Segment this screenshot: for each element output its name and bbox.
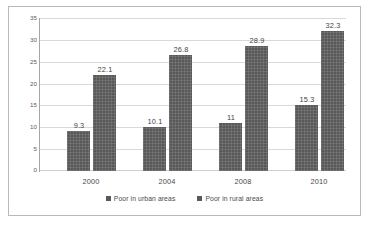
legend-label-urban: Poor in urban areas: [114, 195, 176, 202]
bar-rural-2000[interactable]: [93, 75, 116, 171]
bar-label-rural-2004: 26.8: [164, 46, 198, 54]
bar-rural-2010[interactable]: [321, 31, 344, 171]
bar-group: 10.1 26.8: [143, 18, 192, 171]
y-axis-labels: 35 30 25 20 15 10 5 0: [12, 18, 37, 171]
bar-urban-2010[interactable]: [295, 105, 318, 171]
bar-label-rural-2010: 32.3: [316, 22, 350, 30]
y-tick-label: 30: [15, 37, 37, 43]
bar-urban-2008[interactable]: [219, 123, 242, 171]
y-tick-label: 10: [15, 124, 37, 130]
y-tick-label: 0: [15, 167, 37, 173]
bar-label-rural-2008: 28.9: [240, 37, 274, 45]
bar-urban-2000[interactable]: [67, 131, 90, 171]
bar-label-urban-2004: 10.1: [138, 118, 172, 126]
legend-entry-rural[interactable]: Poor in rural areas: [197, 195, 263, 202]
legend-swatch-icon: [106, 196, 111, 201]
x-tick-label-2008: 2008: [217, 177, 269, 186]
x-tick-label-2000: 2000: [65, 177, 117, 186]
bar-rural-2008[interactable]: [245, 46, 268, 172]
bar-rural-2004[interactable]: [169, 55, 192, 171]
chart-legend: Poor in urban areas Poor in rural areas: [9, 195, 360, 202]
legend-swatch-icon: [197, 196, 202, 201]
y-tick-label: 35: [15, 15, 37, 21]
chart-container: 35 30 25 20 15 10 5 0 9.3 22.1 10.1 26.8…: [8, 6, 361, 216]
y-tick-label: 5: [15, 146, 37, 152]
legend-entry-urban[interactable]: Poor in urban areas: [106, 195, 176, 202]
x-tick-label-2004: 2004: [141, 177, 193, 186]
bar-group: 15.3 32.3: [295, 18, 344, 171]
y-tick-label: 25: [15, 59, 37, 65]
y-tick-label: 20: [15, 81, 37, 87]
bar-group: 11 28.9: [219, 18, 268, 171]
bar-urban-2004[interactable]: [143, 127, 166, 171]
bar-label-urban-2008: 11: [214, 114, 248, 122]
bar-group: 9.3 22.1: [67, 18, 116, 171]
y-tick-label: 15: [15, 102, 37, 108]
legend-label-rural: Poor in rural areas: [205, 195, 263, 202]
bar-label-urban-2000: 9.3: [62, 122, 96, 130]
x-axis-labels: 2000 2004 2008 2010: [40, 177, 346, 189]
bar-label-rural-2000: 22.1: [88, 66, 122, 74]
x-tick-label-2010: 2010: [293, 177, 345, 186]
bar-label-urban-2010: 15.3: [290, 96, 324, 104]
bars-layer: 9.3 22.1 10.1 26.8 11 28.9 15.3 32.3: [40, 18, 346, 171]
